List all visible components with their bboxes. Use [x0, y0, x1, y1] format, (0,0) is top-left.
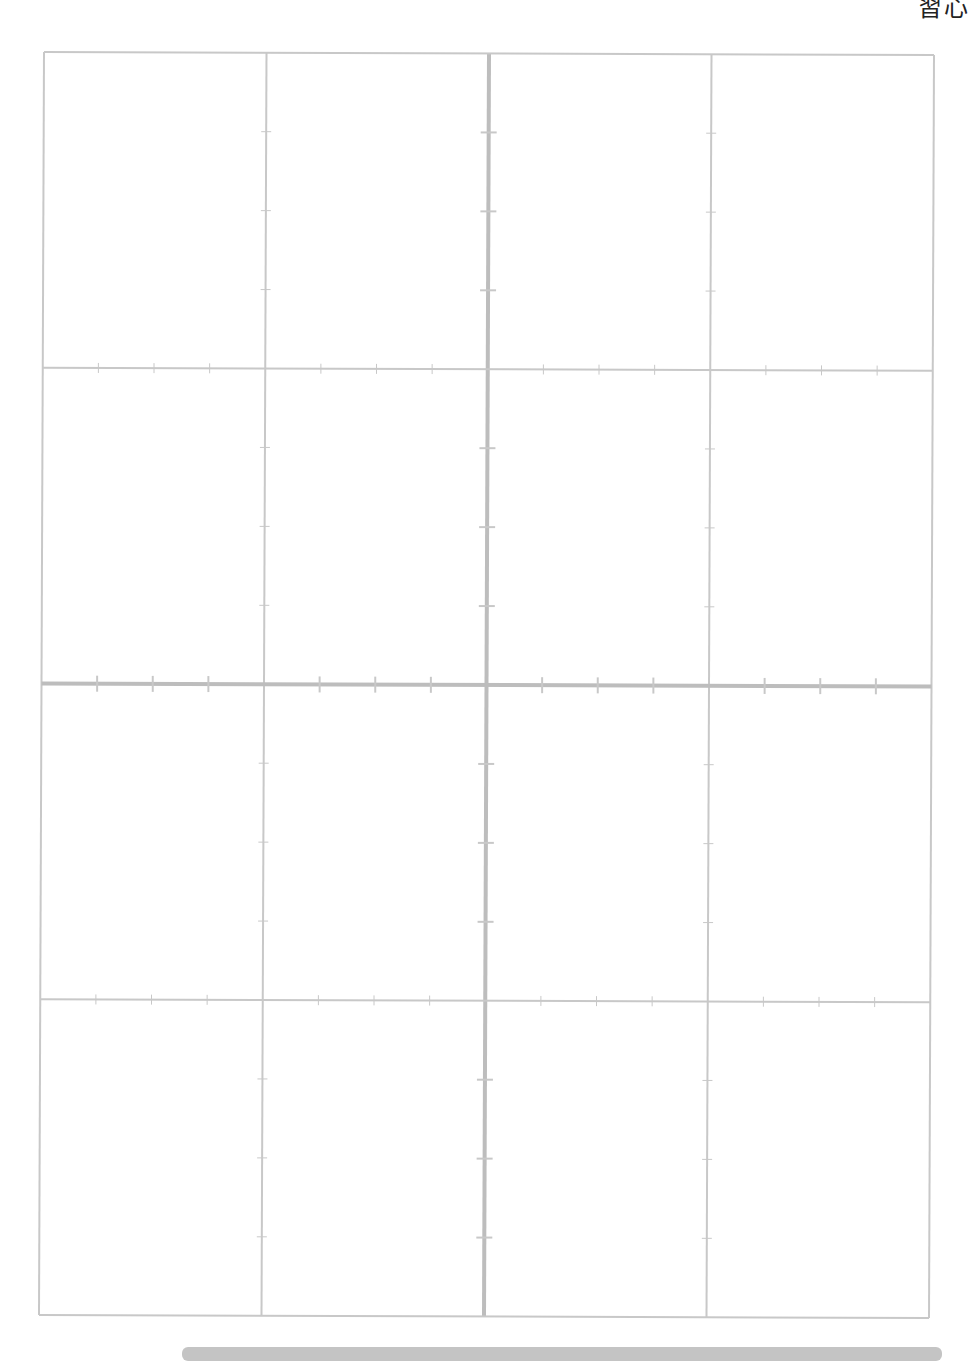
center-horizontal-line [42, 684, 932, 687]
bottom-bar [182, 1347, 942, 1361]
